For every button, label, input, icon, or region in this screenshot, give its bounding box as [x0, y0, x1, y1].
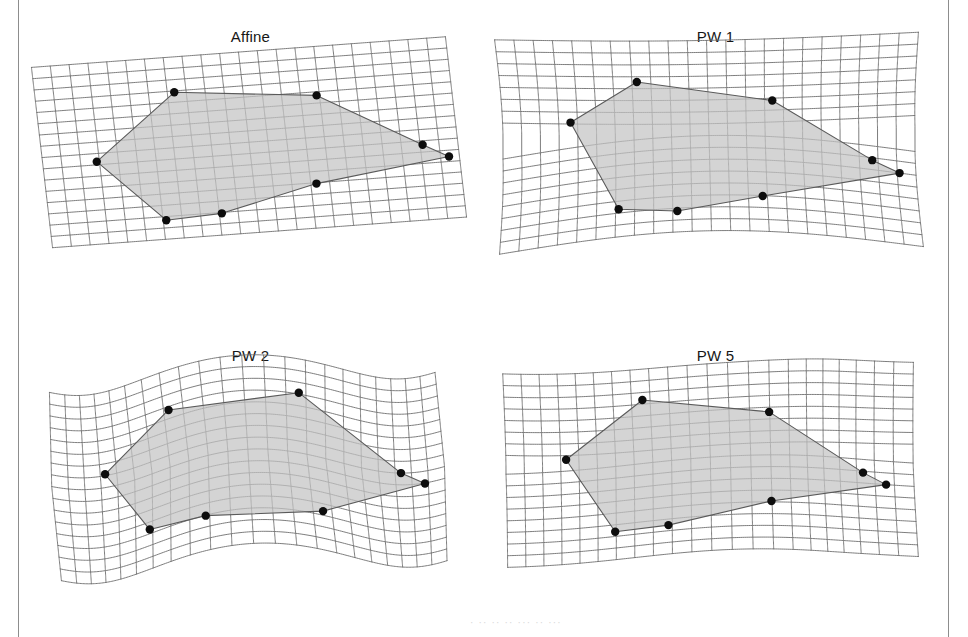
landmark-point-3 [418, 141, 426, 149]
landmark-point-2 [295, 388, 303, 396]
landmark-point-6 [202, 511, 210, 519]
landmark-point-3 [397, 468, 405, 476]
panel-grid: Affine PW 1 PW 2 PW 5 [18, 0, 948, 637]
landmark-point-6 [218, 209, 226, 217]
landmark-point-7 [611, 527, 619, 535]
landmark-point-1 [164, 405, 172, 413]
landmark-point-6 [664, 520, 672, 528]
deformation-grid-pw1 [483, 0, 948, 319]
landmark-point-4 [882, 480, 890, 488]
landmark-point-4 [421, 479, 429, 487]
landmark-point-3 [868, 156, 876, 164]
landmark-polygon [97, 92, 449, 220]
landmark-point-4 [895, 169, 903, 177]
landmark-point-5 [312, 179, 320, 187]
deformation-grid-pw5 [483, 319, 948, 637]
landmark-point-1 [633, 78, 641, 86]
landmark-point-2 [312, 91, 320, 99]
landmark-point-4 [445, 152, 453, 160]
deformation-grid-affine [18, 0, 483, 319]
landmark-polygon [571, 82, 900, 211]
landmark-point-8 [93, 157, 101, 165]
panel-pw1: PW 1 [483, 0, 948, 319]
landmark-point-5 [319, 506, 327, 514]
landmark-point-3 [859, 468, 867, 476]
landmark-point-5 [759, 192, 767, 200]
landmark-point-8 [566, 118, 574, 126]
landmark-point-6 [673, 207, 681, 215]
landmark-point-1 [170, 88, 178, 96]
landmark-point-8 [101, 470, 109, 478]
landmark-point-5 [767, 496, 775, 504]
page-rule-right [948, 0, 949, 637]
panel-affine: Affine [18, 0, 483, 319]
figure-root: Affine PW 1 PW 2 PW 5 · ·· ·· ·· ··· ·· … [0, 0, 968, 637]
landmark-point-7 [162, 216, 170, 224]
landmark-point-1 [638, 395, 646, 403]
panel-pw5: PW 5 [483, 319, 948, 637]
landmark-point-2 [768, 96, 776, 104]
deformation-grid-pw2 [18, 319, 483, 637]
panel-pw2: PW 2 [18, 319, 483, 637]
landmark-point-2 [765, 407, 773, 415]
caption-fragment: · ·· ·· ·· ··· ·· ··· [470, 617, 890, 631]
landmark-point-7 [146, 525, 154, 533]
landmark-point-7 [614, 205, 622, 213]
landmark-point-8 [562, 455, 570, 463]
